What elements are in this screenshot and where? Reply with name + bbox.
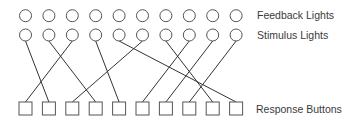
stimulus-light-10 — [230, 29, 242, 41]
stimulus-light-1 — [20, 29, 32, 41]
stimulus-light-9 — [207, 29, 219, 41]
stimulus-light-5 — [113, 29, 125, 41]
feedback-light-1 — [20, 10, 32, 22]
feedback-light-10 — [230, 10, 242, 22]
stimulus-light-4 — [90, 29, 102, 41]
connection-line-3 — [26, 41, 73, 102]
stimulus-light-8 — [183, 29, 195, 41]
feedback-light-3 — [66, 10, 78, 22]
feedback-lights-label: Feedback Lights — [257, 9, 334, 21]
response-button-4[interactable] — [89, 102, 102, 115]
response-buttons-label: Response Buttons — [256, 103, 342, 115]
connection-line-10 — [189, 41, 236, 102]
response-button-3[interactable] — [66, 102, 79, 115]
connection-line-2 — [49, 41, 96, 102]
feedback-light-5 — [113, 10, 125, 22]
stimulus-lights-row — [20, 29, 243, 41]
connection-lines — [26, 41, 237, 102]
response-buttons-row — [19, 102, 243, 115]
stimulus-light-6 — [137, 29, 149, 41]
stimulus-light-2 — [43, 29, 55, 41]
feedback-light-6 — [137, 10, 149, 22]
response-button-7[interactable] — [159, 102, 172, 115]
feedback-light-4 — [90, 10, 102, 22]
response-button-1[interactable] — [19, 102, 32, 115]
feedback-light-7 — [160, 10, 172, 22]
feedback-light-9 — [207, 10, 219, 22]
feedback-light-2 — [43, 10, 55, 22]
connection-line-6 — [72, 41, 142, 102]
stimulus-light-3 — [66, 29, 78, 41]
stimulus-light-7 — [160, 29, 172, 41]
connection-line-8 — [143, 41, 190, 102]
response-button-6[interactable] — [136, 102, 149, 115]
connection-line-5 — [119, 41, 236, 102]
feedback-lights-row — [20, 10, 243, 22]
response-button-2[interactable] — [42, 102, 55, 115]
connection-line-1 — [26, 41, 49, 102]
response-button-8[interactable] — [183, 102, 196, 115]
response-button-5[interactable] — [113, 102, 126, 115]
response-button-10[interactable] — [230, 102, 243, 115]
stimulus-lights-label: Stimulus Lights — [257, 29, 328, 41]
response-button-9[interactable] — [206, 102, 219, 115]
feedback-light-8 — [183, 10, 195, 22]
